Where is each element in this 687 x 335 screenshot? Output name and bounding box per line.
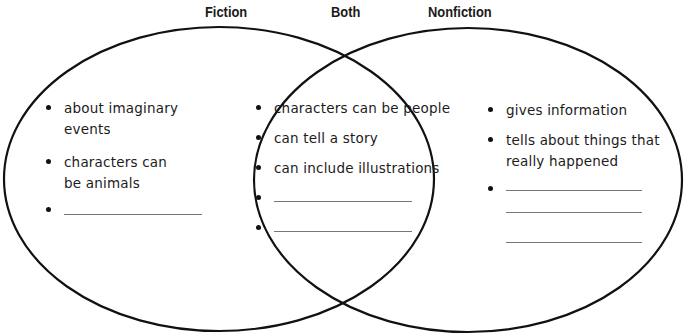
bullet-icon [256,105,261,110]
nonfiction-heading: Nonfiction [428,4,492,20]
fiction-region: about imaginary events characters can be… [42,98,212,221]
blank-line[interactable] [506,190,642,191]
item-text: gives information [506,102,627,118]
item-text: be animals [64,175,140,191]
blank-line[interactable] [506,212,642,213]
bullet-icon [46,159,51,164]
blank-line[interactable] [274,201,412,202]
item-text: tells about things that [506,132,660,148]
bullet-icon [256,225,261,230]
blank-line[interactable] [506,242,642,243]
item-text: really happened [506,153,618,169]
bullet-icon [488,137,493,142]
nonfiction-blank-item[interactable] [484,179,674,200]
item-text: can tell a story [274,130,378,146]
both-heading: Both [331,4,360,20]
item-text: characters can [64,154,167,170]
blank-line[interactable] [274,231,412,232]
bullet-icon [488,186,493,191]
both-blank-item-1[interactable] [252,188,452,209]
both-item-2: can tell a story [252,128,452,149]
nonfiction-blank-line-3[interactable] [484,239,674,260]
bullet-icon [256,195,261,200]
bullet-icon [46,207,51,212]
bullet-icon [256,165,261,170]
item-text: can include illustrations [274,160,440,176]
fiction-item-2: characters can be animals [42,152,212,194]
item-text: events [64,121,111,137]
both-blank-item-2[interactable] [252,218,452,239]
both-region: characters can be people can tell a stor… [252,98,452,239]
bullet-icon [256,135,261,140]
nonfiction-item-1: gives information [484,100,674,121]
nonfiction-blank-line-2[interactable] [484,209,674,230]
blank-line[interactable] [64,214,202,215]
item-text: characters can be people [274,100,450,116]
both-item-3: can include illustrations [252,158,452,179]
fiction-item-1: about imaginary events [42,98,212,140]
nonfiction-item-2: tells about things that really happened [484,130,674,172]
bullet-icon [488,107,493,112]
fiction-heading: Fiction [205,4,247,20]
both-item-1: characters can be people [252,98,452,119]
bullet-icon [46,105,51,110]
fiction-blank-item[interactable] [42,200,212,221]
item-text: about imaginary [64,100,178,116]
nonfiction-region: gives information tells about things tha… [484,100,674,260]
